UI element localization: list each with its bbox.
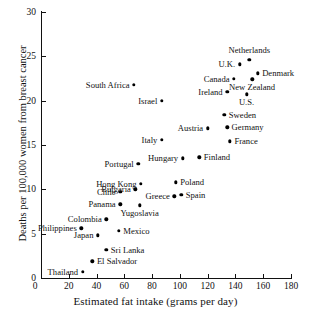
x-tick-mark	[97, 274, 98, 278]
data-point-label: Denmark	[262, 69, 294, 78]
x-tick-mark	[124, 274, 125, 278]
data-point	[256, 71, 259, 74]
data-point	[139, 182, 142, 185]
x-tick-label: 80	[147, 281, 157, 291]
data-point	[238, 63, 241, 66]
x-tick-label: 120	[201, 281, 215, 291]
data-point-label: Panama	[88, 200, 115, 209]
data-point-label: New Zealand	[229, 83, 275, 92]
x-tick-label: 60	[120, 281, 130, 291]
x-tick-label: 20	[64, 281, 74, 291]
data-point	[138, 204, 141, 207]
data-point	[181, 157, 184, 160]
data-point	[245, 93, 248, 96]
data-point-label: Colombia	[68, 215, 102, 224]
x-tick-label: 160	[256, 281, 270, 291]
data-point	[206, 126, 209, 129]
x-tick-mark	[208, 274, 209, 278]
data-point-label: Mexico	[123, 227, 149, 236]
y-tick-mark	[42, 278, 46, 279]
data-point	[198, 156, 201, 159]
y-axis-title: Deaths per 100,000 women from breast can…	[17, 19, 28, 269]
x-tick-mark	[263, 274, 264, 278]
data-point	[137, 162, 140, 165]
data-point-label: U.K.	[218, 60, 235, 69]
x-tick-mark	[291, 274, 292, 278]
data-point-label: Austria	[178, 124, 203, 133]
data-point-label: Portugal	[105, 159, 134, 168]
data-point	[160, 138, 163, 141]
data-point-label: Sweden	[229, 110, 256, 119]
data-point	[160, 99, 163, 102]
y-tick-mark	[42, 56, 46, 57]
data-point-label: South Africa	[86, 80, 130, 89]
data-point-label: Ireland	[198, 87, 222, 96]
data-point-label: Germany	[232, 123, 264, 132]
data-point-label: Hungary	[148, 154, 178, 163]
data-point-label: Finland	[204, 153, 230, 162]
data-point	[118, 203, 121, 206]
data-point	[96, 234, 99, 237]
data-point	[250, 78, 253, 81]
data-point-label: Netherlands	[229, 46, 271, 55]
data-point-label: El Salvador	[97, 257, 137, 266]
data-point-label: Hong Kong	[96, 180, 136, 189]
y-tick-mark	[42, 101, 46, 102]
data-point-label: Poland	[180, 178, 204, 187]
data-point	[180, 193, 183, 196]
data-point	[228, 140, 231, 143]
x-axis-line	[41, 278, 292, 279]
x-tick-label: 40	[92, 281, 102, 291]
x-tick-label: 140	[228, 281, 242, 291]
y-tick-mark	[42, 234, 46, 235]
data-point	[232, 77, 235, 80]
x-tick-label: 180	[284, 281, 298, 291]
data-point	[173, 195, 176, 198]
y-tick-mark	[42, 189, 46, 190]
y-tick-mark	[42, 145, 46, 146]
scatter-plot-figure: 020406080100120140160180 051015202530 Th…	[0, 0, 311, 319]
data-point-label: Thailand	[48, 267, 79, 276]
data-point-label: France	[234, 137, 257, 146]
data-point	[248, 58, 251, 61]
data-point	[117, 229, 120, 232]
x-tick-mark	[180, 274, 181, 278]
data-point-label: Sri Lanka	[111, 245, 145, 254]
data-point	[174, 181, 177, 184]
y-tick-label: 30	[14, 7, 36, 17]
x-tick-mark	[235, 274, 236, 278]
data-point-label: Israel	[138, 96, 157, 105]
y-tick-mark	[42, 12, 46, 13]
data-point-label: Philippines	[38, 224, 77, 233]
x-axis-title: Estimated fat intake (grams per day)	[0, 295, 311, 307]
data-point-label: Italy	[142, 135, 158, 144]
data-point-label: Spain	[186, 190, 206, 199]
data-point	[81, 270, 84, 273]
data-point-label: Canada	[204, 74, 230, 83]
y-tick-label: 0	[14, 273, 36, 283]
data-point	[105, 248, 108, 251]
x-tick-mark	[152, 274, 153, 278]
x-tick-label: 100	[173, 281, 187, 291]
data-point	[225, 126, 228, 129]
data-point	[91, 259, 94, 262]
data-point	[223, 113, 226, 116]
data-point-label: U.S.	[239, 98, 254, 107]
data-point	[132, 83, 135, 86]
data-point-label: Yugoslavia	[121, 209, 159, 218]
data-point	[105, 218, 108, 221]
data-point-label: Greece	[146, 192, 170, 201]
